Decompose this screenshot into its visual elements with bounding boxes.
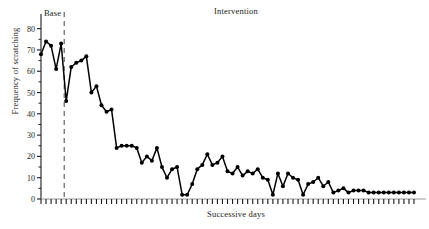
data-point (155, 146, 159, 150)
data-point (286, 171, 290, 175)
data-point (195, 167, 199, 171)
data-point (397, 191, 401, 195)
data-point (392, 191, 396, 195)
data-point (296, 178, 300, 182)
data-point (311, 180, 315, 184)
data-point (105, 110, 109, 114)
data-point (281, 184, 285, 188)
data-point (205, 152, 209, 156)
data-point (44, 39, 48, 43)
data-point (372, 191, 376, 195)
data-point (402, 191, 406, 195)
data-point (367, 191, 371, 195)
chart-canvas: 01020304050607080 (0, 0, 429, 229)
data-point (246, 169, 250, 173)
y-tick-label: 80 (27, 25, 35, 34)
data-point (140, 161, 144, 165)
data-point (321, 184, 325, 188)
data-point (346, 191, 350, 195)
x-axis-label: Successive days (207, 210, 265, 219)
data-point (84, 54, 88, 58)
data-markers (39, 39, 416, 196)
data-point (180, 193, 184, 197)
y-tick-label: 40 (27, 110, 35, 119)
data-point (39, 52, 43, 56)
data-point (110, 108, 114, 112)
data-point (382, 191, 386, 195)
data-point (236, 165, 240, 169)
data-point (331, 191, 335, 195)
data-point (120, 144, 124, 148)
data-point (160, 165, 164, 169)
data-point (251, 171, 255, 175)
data-point (170, 167, 174, 171)
data-point (336, 188, 340, 192)
y-axis-label-wrapper: Frequency of scratching (4, 6, 22, 136)
scratching-frequency-chart: 01020304050607080 Base Intervention Succ… (0, 0, 429, 229)
data-point (261, 176, 265, 180)
data-point (49, 44, 53, 48)
data-point (135, 146, 139, 150)
data-point (54, 67, 58, 71)
data-point (145, 154, 149, 158)
data-point (64, 99, 68, 103)
data-point (412, 191, 416, 195)
data-point (357, 188, 361, 192)
data-point (89, 91, 93, 95)
y-axis: 01020304050607080 (27, 14, 41, 204)
data-point (185, 193, 189, 197)
y-tick-label: 0 (31, 195, 35, 204)
data-point (407, 191, 411, 195)
data-point (362, 188, 366, 192)
data-point (316, 176, 320, 180)
data-point (74, 61, 78, 65)
phase-label-intervention: Intervention (214, 7, 258, 16)
data-point (125, 144, 129, 148)
data-point (79, 59, 83, 63)
y-axis-label: Frequency of scratching (10, 28, 20, 115)
data-point (226, 169, 230, 173)
data-point (387, 191, 391, 195)
data-point (352, 188, 356, 192)
data-point (306, 182, 310, 186)
phase-label-base: Base (44, 9, 61, 18)
data-point (165, 176, 169, 180)
y-tick-label: 70 (27, 46, 35, 55)
x-axis (41, 199, 426, 204)
data-point (200, 163, 204, 167)
data-point (175, 165, 179, 169)
data-point (341, 186, 345, 190)
data-point (377, 191, 381, 195)
data-point (115, 146, 119, 150)
data-point (210, 163, 214, 167)
data-point (276, 171, 280, 175)
data-point (150, 159, 154, 163)
data-point (220, 154, 224, 158)
y-tick-label: 60 (27, 67, 35, 76)
data-point (69, 65, 73, 69)
data-point (326, 180, 330, 184)
data-point (59, 42, 63, 46)
y-tick-label: 50 (27, 89, 35, 98)
data-point (266, 178, 270, 182)
data-point (301, 193, 305, 197)
data-point (271, 193, 275, 197)
data-point (99, 103, 103, 107)
y-tick-label: 20 (27, 152, 35, 161)
data-point (190, 182, 194, 186)
data-point (215, 161, 219, 165)
data-point (291, 176, 295, 180)
y-tick-label: 30 (27, 131, 35, 140)
data-point (130, 144, 134, 148)
y-tick-label: 10 (27, 174, 35, 183)
data-point (94, 84, 98, 88)
data-point (256, 167, 260, 171)
data-point (231, 171, 235, 175)
data-point (241, 174, 245, 178)
